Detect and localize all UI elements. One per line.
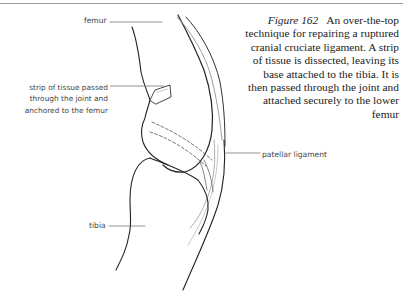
figure-caption: Figure 162 An over-the-top technique for…	[242, 14, 399, 121]
figure-number: Figure 162	[268, 14, 319, 26]
tissue-strip	[152, 122, 212, 160]
label-femur: femur	[84, 16, 107, 26]
tibia-outline	[116, 158, 150, 270]
tissue-flap	[150, 85, 171, 104]
label-tissue-strip: strip of tissue passed through the joint…	[16, 82, 108, 116]
label-tibia: tibia	[89, 221, 106, 231]
patella-outline	[177, 17, 222, 140]
caption-text: An over-the-top technique for repairing …	[245, 14, 399, 120]
label-patellar-ligament: patellar ligament	[262, 150, 327, 160]
